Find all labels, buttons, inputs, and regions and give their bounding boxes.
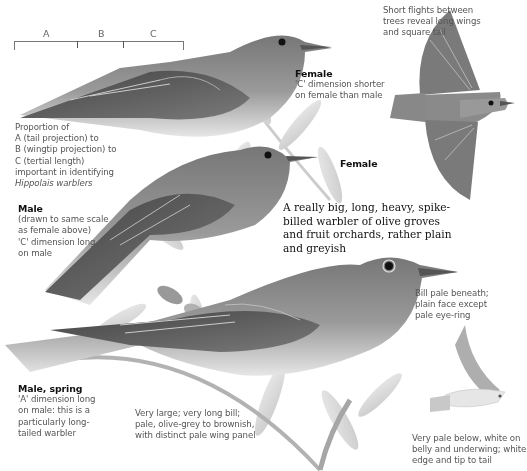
note-line: Very pale below, white on: [412, 433, 527, 444]
summary-line: and fruit orchards, rather plain: [283, 228, 483, 242]
summary-line: and greyish: [283, 242, 483, 256]
note-line: tailed warbler: [18, 428, 118, 439]
note-line: Bill pale beneath;: [415, 288, 520, 299]
scale-label-b: B: [98, 28, 105, 39]
scale-label-a: A: [43, 28, 50, 39]
note-line: Short flights between: [383, 5, 503, 16]
note-line: on male: [18, 248, 118, 259]
note-line: as female above): [18, 225, 118, 236]
note-proportion: Proportion of A (tail projection) to B (…: [15, 122, 125, 189]
underside-flight-bird: [430, 325, 505, 412]
note-male-spring: Male, spring 'A' dimension long on male:…: [18, 383, 118, 439]
note-line: 'A' dimension long: [18, 394, 118, 405]
note-line: Proportion of: [15, 122, 125, 133]
note-title: Male, spring: [18, 383, 118, 394]
note-line: 'C' dimension long: [18, 237, 118, 248]
summary-line: A really big, long, heavy, spike-: [283, 201, 483, 215]
note-line: (drawn to same scale: [18, 214, 118, 225]
note-title: Female: [340, 158, 377, 169]
note-line: pale eye-ring: [415, 310, 520, 321]
note-title: Male: [18, 203, 118, 214]
note-line: pale, olive-grey to brownish,: [135, 419, 285, 430]
scale-tick-ab: [77, 41, 78, 48]
note-line: important in identifying: [15, 167, 125, 178]
note-bill: Bill pale beneath; plain face except pal…: [415, 288, 520, 322]
note-line: Very large; very long bill;: [135, 408, 285, 419]
note-line: C (tertial length): [15, 156, 125, 167]
note-line: plain face except: [415, 299, 520, 310]
note-male: Male (drawn to same scale as female abov…: [18, 203, 118, 259]
species-summary: A really big, long, heavy, spike- billed…: [283, 201, 483, 255]
note-line: with distinct pale wing panel: [135, 430, 285, 441]
note-line: edge and tip to tail: [412, 455, 527, 466]
note-female-perched: Female 'C' dimension shorter on female t…: [295, 68, 390, 102]
note-flight-label: Female: [340, 158, 377, 169]
summary-line: billed warbler of olive groves: [283, 215, 483, 229]
note-title: Female: [295, 68, 390, 79]
note-line: particularly long-: [18, 417, 118, 428]
note-size: Very large; very long bill; pale, olive-…: [135, 408, 285, 442]
note-flight: Short flights between trees reveal long …: [383, 5, 503, 39]
scale-label-c: C: [150, 28, 157, 39]
scale-tick-bc: [123, 41, 124, 48]
note-line: belly and underwing; white: [412, 444, 527, 455]
note-line: and square tail: [383, 27, 503, 38]
note-line: on male: this is a: [18, 405, 118, 416]
note-line: A (tail projection) to: [15, 133, 125, 144]
note-text: 'C' dimension shorter on female than mal…: [295, 79, 385, 100]
note-line: B (wingtip projection) to: [15, 144, 125, 155]
note-underside: Very pale below, white on belly and unde…: [412, 433, 527, 467]
note-line: trees reveal long wings: [383, 16, 503, 27]
tail-wing-scale-bar: [14, 41, 184, 50]
note-line: Hippolais warblers: [15, 178, 125, 189]
